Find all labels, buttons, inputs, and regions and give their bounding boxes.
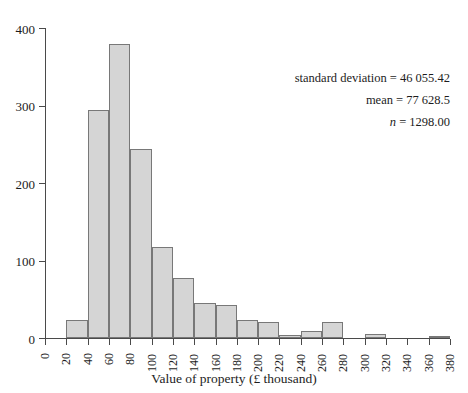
histogram-bar [109, 44, 130, 338]
histogram-bar [258, 322, 279, 338]
annotation-symbol: n [390, 115, 396, 129]
x-axis-line [45, 338, 450, 339]
x-axis-title: Value of property (£ thousand) [0, 371, 468, 387]
annotation-line: standard deviation = 46 055.42 [295, 68, 450, 90]
histogram-bar [237, 320, 258, 338]
x-axis-tick-label: 300 [359, 354, 371, 372]
x-axis-tick: 280 [343, 339, 344, 345]
x-axis-tick: 0 [45, 339, 46, 345]
y-axis-tick: 400 [39, 28, 45, 29]
histogram-bar [88, 110, 109, 338]
x-axis-tick: 200 [258, 339, 259, 345]
histogram-bar [301, 331, 322, 338]
x-axis-tick-label: 80 [124, 353, 136, 365]
histogram-bar [322, 322, 343, 338]
annotation-line: n = 1298.00 [295, 112, 450, 134]
y-axis-tick-label: 100 [16, 255, 36, 268]
histogram-bar [365, 334, 386, 338]
histogram-bar [152, 247, 173, 338]
x-axis-tick-label: 260 [316, 354, 328, 372]
histogram-chart: 0100200300400 02040608010012014016018020… [0, 0, 468, 393]
x-axis-tick: 260 [322, 339, 323, 345]
x-axis-tick-label: 320 [380, 354, 392, 372]
x-axis-tick: 160 [216, 339, 217, 345]
x-axis-tick: 360 [429, 339, 430, 345]
x-axis-tick-label: 60 [103, 353, 115, 365]
histogram-bar [429, 336, 450, 338]
x-axis-tick-label: 0 [39, 353, 51, 359]
histogram-bar [194, 303, 215, 338]
x-axis-tick: 180 [237, 339, 238, 345]
x-axis-tick: 320 [386, 339, 387, 345]
y-axis-tick-label: 0 [29, 332, 36, 345]
x-axis-tick: 340 [407, 339, 408, 345]
histogram-bar [279, 335, 300, 338]
annotation-line: mean = 77 628.5 [295, 90, 450, 112]
x-axis-tick: 60 [109, 339, 110, 345]
y-axis-tick-label: 200 [16, 177, 36, 190]
y-axis-tick-label: 300 [16, 100, 36, 113]
x-axis-tick-label: 20 [60, 353, 72, 365]
x-axis-tick: 120 [173, 339, 174, 345]
x-axis-tick: 300 [365, 339, 366, 345]
x-axis-tick-label: 40 [82, 353, 94, 365]
histogram-bar [216, 305, 237, 338]
histogram-bar [173, 278, 194, 338]
x-axis-tick-label: 200 [252, 354, 264, 372]
x-axis-tick: 20 [66, 339, 67, 345]
x-axis-tick-label: 140 [188, 354, 200, 372]
x-axis-tick-label: 340 [401, 354, 413, 372]
statistics-annotation: standard deviation = 46 055.42mean = 77 … [295, 68, 450, 134]
x-axis-tick: 380 [450, 339, 451, 345]
y-axis-line [45, 28, 46, 339]
y-axis-tick-label: 400 [16, 22, 36, 35]
x-axis-tick-label: 160 [210, 354, 222, 372]
x-axis-tick-label: 100 [146, 354, 158, 372]
y-axis-tick: 300 [39, 106, 45, 107]
x-axis-tick: 240 [301, 339, 302, 345]
x-axis-tick-label: 120 [167, 354, 179, 372]
x-axis-tick-label: 240 [295, 354, 307, 372]
x-axis-tick: 80 [130, 339, 131, 345]
x-axis-tick-label: 280 [337, 354, 349, 372]
x-axis-tick-label: 180 [231, 354, 243, 372]
x-axis-tick-label: 220 [273, 354, 285, 372]
histogram-bar [130, 149, 151, 338]
x-axis-tick: 100 [152, 339, 153, 345]
histogram-bar [66, 320, 87, 338]
y-axis-tick: 100 [39, 261, 45, 262]
x-axis-tick: 140 [194, 339, 195, 345]
y-axis-tick: 200 [39, 183, 45, 184]
x-axis-tick-label: 380 [444, 354, 456, 372]
x-axis-tick: 40 [88, 339, 89, 345]
x-axis-tick-label: 360 [423, 354, 435, 372]
x-axis-tick: 220 [279, 339, 280, 345]
